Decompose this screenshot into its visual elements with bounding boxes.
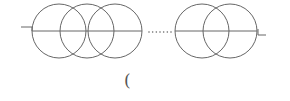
dot [167,31,169,33]
circle-chain-diagram [0,0,290,101]
left-end-mark [21,27,32,31]
dot [152,31,154,33]
dot [159,31,161,33]
dot [170,31,172,33]
ellipsis-dots [148,31,172,33]
dot [148,31,150,33]
dot [163,31,165,33]
caption-paren: ( [124,70,131,90]
dot [156,31,158,33]
right-end-mark [258,29,266,35]
